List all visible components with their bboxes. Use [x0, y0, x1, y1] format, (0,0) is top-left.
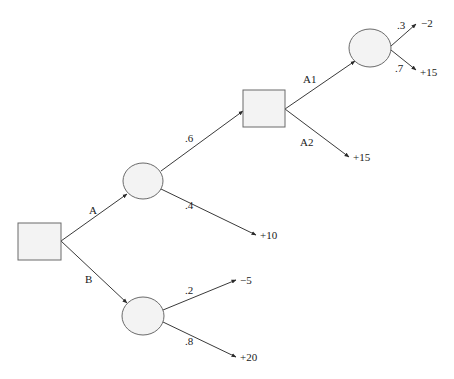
- edge-a2: [285, 109, 349, 157]
- decision-node-root: [18, 223, 61, 260]
- edge-prob-04: [161, 189, 256, 235]
- label-prob-02: .2: [185, 284, 193, 296]
- chance-node-a: [123, 163, 163, 199]
- outcome-minus2: −2: [421, 17, 433, 29]
- decision-node-a: [243, 90, 285, 127]
- label-prob-07: .7: [395, 62, 404, 74]
- edge-a: [61, 194, 127, 241]
- label-branch-a2: A2: [300, 136, 313, 148]
- label-branch-a1: A1: [303, 73, 316, 85]
- edge-b: [61, 241, 127, 303]
- label-prob-04: .4: [185, 199, 194, 211]
- chance-node-b: [122, 297, 164, 335]
- edge-a1: [285, 61, 355, 109]
- outcome-plus10: +10: [260, 229, 278, 241]
- label-branch-a: A: [89, 204, 97, 216]
- outcome-plus20: +20: [240, 351, 258, 363]
- label-prob-03: .3: [397, 19, 406, 31]
- decision-tree-diagram: A B .6 .4 .2 .8 A1 A2 .3 .7 −2 +15 +15 +…: [0, 0, 454, 379]
- label-prob-08: .8: [185, 335, 194, 347]
- label-branch-b: B: [85, 273, 92, 285]
- edge-prob-06: [161, 111, 243, 171]
- edge-prob-02: [163, 280, 236, 310]
- chance-node-a1: [349, 29, 391, 67]
- outcome-plus15-a2: +15: [353, 151, 371, 163]
- outcome-plus15-a1: +15: [420, 66, 438, 78]
- label-prob-06: .6: [185, 132, 194, 144]
- outcome-minus5: −5: [240, 274, 252, 286]
- edge-prob-08: [163, 322, 236, 357]
